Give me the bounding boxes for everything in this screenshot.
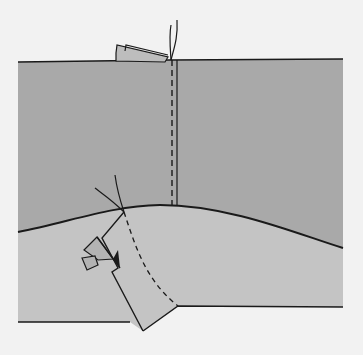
- sewing-illustration: [0, 0, 363, 355]
- diagram-canvas: Sewing illustration: seam with folded co…: [0, 0, 363, 355]
